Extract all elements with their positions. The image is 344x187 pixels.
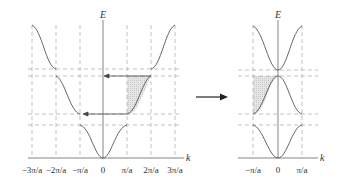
tick-label: −π/a bbox=[72, 165, 88, 175]
tick-label: π/a bbox=[121, 165, 132, 175]
shaded-region bbox=[127, 76, 151, 114]
k-axis-label: k bbox=[186, 152, 191, 163]
band-structure-figure: E k −3π/a −2π/a −π/a 0 π/a 2π/a 3π/a bbox=[0, 0, 344, 187]
tick-label: 2π/a bbox=[143, 165, 159, 175]
band-curves bbox=[32, 25, 175, 158]
tick-label: −3π/a bbox=[22, 165, 43, 175]
tick-label: 3π/a bbox=[167, 165, 183, 175]
zone-boundary-lines bbox=[32, 25, 175, 158]
e-axis-label: E bbox=[274, 9, 281, 20]
reduced-zone-diagram: E k −π/a 0 π/a bbox=[238, 9, 325, 175]
tick-label: π/a bbox=[296, 165, 307, 175]
band-gap-lines bbox=[28, 69, 182, 125]
extended-zone-diagram: E k −3π/a −2π/a −π/a 0 π/a 2π/a 3π/a bbox=[22, 9, 191, 175]
tick-label: 0 bbox=[101, 165, 106, 175]
tick-label: 0 bbox=[276, 165, 281, 175]
k-axis-label: k bbox=[320, 152, 325, 163]
tick-label: −π/a bbox=[245, 165, 261, 175]
arrow-right-icon bbox=[220, 94, 228, 101]
e-axis-label: E bbox=[99, 9, 106, 20]
tick-label: −2π/a bbox=[46, 165, 67, 175]
tick-labels: −π/a 0 π/a bbox=[245, 165, 308, 175]
tick-labels: −3π/a −2π/a −π/a 0 π/a 2π/a 3π/a bbox=[22, 165, 183, 175]
transform-arrow bbox=[196, 94, 228, 101]
